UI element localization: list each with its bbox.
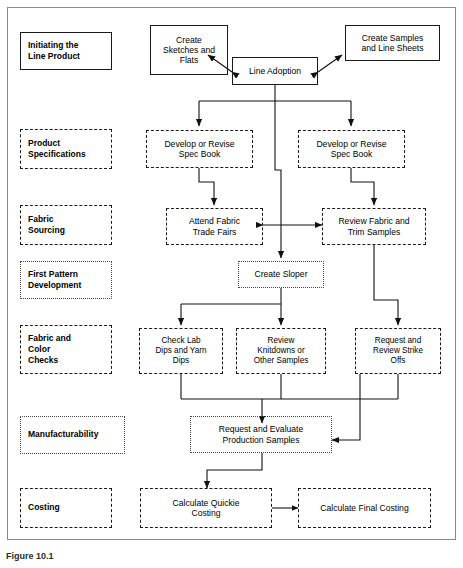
stage-fabric-and-color-checks-text: Fabric andColorChecks [28, 333, 71, 366]
node-request-and-evaluate-production-samples: Request and EvaluateProduction Samples [190, 416, 332, 453]
stage-initiating-text: Initiating theLine Product [28, 40, 80, 62]
node-calculate-quickie-costing-text: Calculate QuickieCosting [171, 498, 242, 518]
node-check-lab-dips-and-yarn-dips-text: Check LabDips and YarnDips [153, 336, 208, 365]
stage-product-specifications-text: ProductSpecifications [28, 138, 86, 160]
node-create-samples-and-line-sheets: Create Samplesand Line Sheets [345, 25, 440, 61]
stage-label-costing: Costing [20, 488, 112, 528]
node-create-sloper: Create Sloper [238, 261, 324, 288]
stage-label-first-pattern-development: First PatternDevelopment [20, 261, 112, 299]
stage-fabric-sourcing-text: FabricSourcing [28, 214, 65, 236]
stage-label-fabric-and-color-checks: Fabric andColorChecks [20, 325, 112, 374]
node-develop-or-revise-spec-book-left-text: Develop or ReviseSpec Book [162, 139, 236, 159]
stage-costing-text: Costing [28, 502, 60, 513]
node-develop-or-revise-spec-book-left: Develop or ReviseSpec Book [146, 130, 253, 168]
stage-label-fabric-sourcing: FabricSourcing [20, 205, 112, 245]
stage-label-manufacturability: Manufacturability [20, 416, 125, 454]
node-request-and-review-strike-offs-text: Request andReview StrikeOffs [371, 336, 425, 365]
node-review-fabric-and-trim-samples-text: Review Fabric andTrim Samples [336, 216, 411, 236]
node-line-adoption-text: Line Adoption [247, 66, 303, 76]
flowchart-diagram: Initiating theLine Product ProductSpecif… [0, 0, 463, 568]
node-check-lab-dips-and-yarn-dips: Check LabDips and YarnDips [139, 328, 223, 374]
node-develop-or-revise-spec-book-right-text: Develop or ReviseSpec Book [314, 139, 388, 159]
node-line-adoption: Line Adoption [232, 57, 318, 85]
node-request-and-review-strike-offs: Request andReview StrikeOffs [355, 328, 441, 374]
node-review-knitdowns-or-other-samples: ReviewKnitdowns orOther Samples [236, 328, 326, 374]
node-request-and-evaluate-production-samples-text: Request and EvaluateProduction Samples [217, 424, 306, 444]
figure-caption: Figure 10.1 [6, 551, 54, 561]
node-create-sloper-text: Create Sloper [252, 269, 309, 279]
node-create-samples-and-line-sheets-text: Create Samplesand Line Sheets [359, 33, 425, 53]
node-attend-fabric-trade-fairs: Attend FabricTrade Fairs [166, 208, 263, 245]
stage-label-initiating: Initiating theLine Product [20, 32, 112, 70]
node-calculate-final-costing-text: Calculate Final Costing [318, 503, 410, 513]
node-review-fabric-and-trim-samples: Review Fabric andTrim Samples [322, 208, 426, 245]
node-create-sketches-and-flats: CreateSketches andFlats [150, 25, 228, 75]
stage-first-pattern-development-text: First PatternDevelopment [28, 269, 81, 291]
stage-label-product-specifications: ProductSpecifications [20, 129, 112, 169]
node-attend-fabric-trade-fairs-text: Attend FabricTrade Fairs [187, 216, 242, 236]
node-create-sketches-and-flats-text: CreateSketches andFlats [161, 35, 217, 65]
node-calculate-quickie-costing: Calculate QuickieCosting [140, 488, 272, 528]
node-review-knitdowns-or-other-samples-text: ReviewKnitdowns orOther Samples [252, 336, 311, 365]
node-develop-or-revise-spec-book-right: Develop or ReviseSpec Book [298, 130, 405, 168]
stage-manufacturability-text: Manufacturability [28, 429, 98, 440]
node-calculate-final-costing: Calculate Final Costing [298, 488, 431, 528]
